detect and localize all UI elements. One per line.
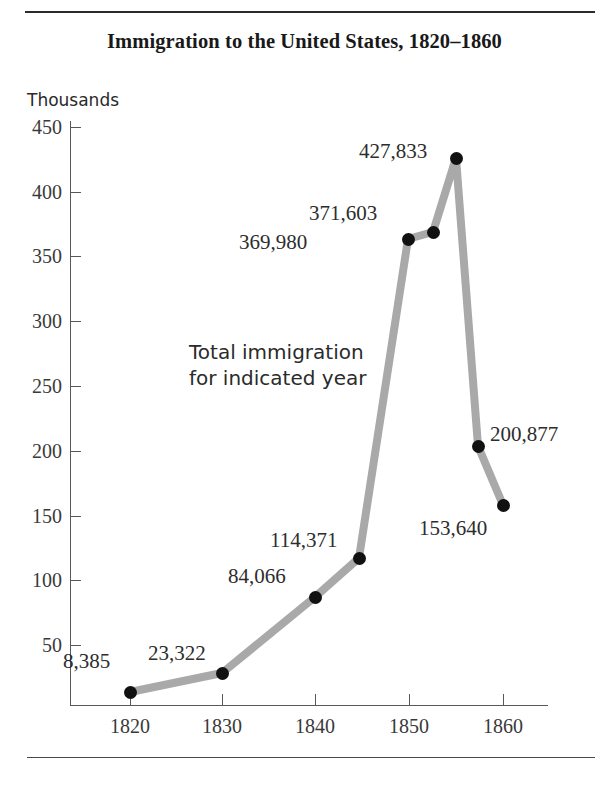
data-point-label: 369,980 — [239, 232, 307, 253]
data-point-label: 114,371 — [270, 530, 337, 551]
data-point-label: 23,322 — [148, 643, 206, 664]
data-point — [427, 226, 440, 239]
data-point — [353, 552, 366, 565]
data-point — [497, 499, 510, 512]
data-point — [450, 152, 463, 165]
chart-annotation: Total immigration for indicated year — [189, 340, 366, 391]
data-point-label: 200,877 — [490, 424, 558, 445]
data-point-label: 371,603 — [309, 203, 377, 224]
data-point — [472, 440, 485, 453]
figure-page: Immigration to the United States, 1820–1… — [0, 0, 609, 793]
data-point-label: 8,385 — [63, 651, 110, 672]
data-point-label: 153,640 — [419, 518, 487, 539]
data-point — [309, 591, 322, 604]
data-point-label: 84,066 — [228, 566, 286, 587]
data-point — [124, 686, 137, 699]
data-point — [216, 667, 229, 680]
bottom-divider — [27, 757, 595, 758]
data-point-label: 427,833 — [359, 141, 427, 162]
data-point — [402, 233, 415, 246]
series-line — [0, 0, 609, 793]
chart-plot-area: 45040035030025020015010050 1820183018401… — [0, 0, 609, 793]
